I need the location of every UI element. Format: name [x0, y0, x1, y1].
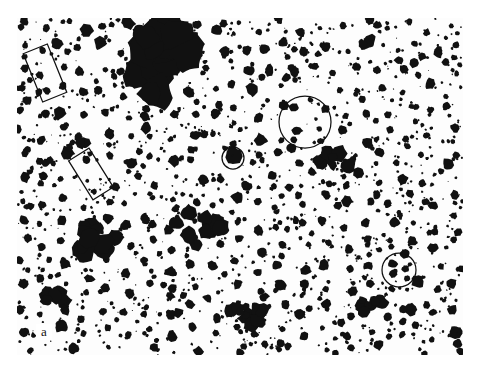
particle: [449, 83, 452, 86]
particle: [310, 158, 313, 161]
particle: [123, 48, 124, 49]
particle: [162, 241, 163, 242]
particle: [198, 129, 201, 131]
particle: [42, 321, 45, 323]
agglomerate-left-mid: [63, 209, 129, 269]
particle: [310, 31, 313, 34]
particle: [20, 103, 23, 106]
particle: [178, 157, 182, 161]
particle: [112, 142, 115, 146]
particle: [52, 183, 57, 187]
particle: [40, 307, 41, 308]
particle: [160, 256, 163, 259]
particle: [22, 267, 25, 270]
particle: [318, 259, 328, 271]
particle: [451, 228, 453, 230]
particle: [274, 68, 276, 71]
particle: [366, 118, 368, 120]
particle: [419, 42, 422, 45]
particle: [284, 184, 294, 192]
particle: [202, 65, 210, 72]
particle: [39, 46, 46, 54]
particle: [300, 327, 303, 330]
particle: [395, 280, 397, 282]
particle: [312, 140, 316, 144]
particle: [329, 216, 331, 218]
particle: [19, 85, 25, 92]
particle: [412, 321, 420, 329]
particle: [20, 215, 30, 224]
particle: [361, 88, 363, 90]
particle: [80, 330, 86, 337]
particle: [184, 178, 187, 181]
particle: [373, 66, 381, 74]
particle: [447, 113, 451, 117]
particle: [396, 38, 397, 39]
particle: [116, 140, 118, 143]
particle: [22, 306, 26, 309]
particle: [370, 338, 374, 342]
particle: [34, 275, 37, 277]
particle: [243, 66, 254, 76]
particle: [314, 258, 317, 261]
particle: [119, 308, 127, 316]
particle: [213, 86, 220, 92]
particle: [295, 191, 302, 199]
particle: [347, 286, 358, 296]
particle: [386, 239, 388, 241]
particle: [61, 63, 68, 70]
particle: [240, 343, 247, 349]
particle: [320, 294, 323, 296]
particle: [310, 287, 313, 290]
particle: [137, 101, 138, 103]
particle: [312, 186, 315, 189]
particle: [221, 315, 225, 319]
particle: [458, 274, 460, 277]
particle: [369, 327, 371, 328]
particle: [376, 209, 381, 213]
particle: [200, 70, 205, 75]
particle: [207, 261, 218, 271]
particle: [137, 303, 140, 306]
particle: [88, 188, 91, 190]
particle: [348, 65, 349, 66]
particle: [248, 175, 252, 179]
particle: [40, 63, 42, 64]
particle: [251, 261, 255, 265]
particle: [136, 251, 137, 252]
particle: [245, 83, 257, 97]
particle: [282, 203, 285, 206]
particle: [277, 220, 282, 225]
particle: [219, 20, 228, 28]
particle: [75, 66, 84, 76]
particle: [305, 241, 311, 247]
particle: [278, 137, 284, 143]
particle: [444, 36, 448, 40]
particle: [160, 195, 164, 199]
particle: [210, 340, 213, 343]
particle: [289, 170, 291, 172]
particle: [381, 282, 384, 285]
particle: [326, 280, 330, 284]
particle: [115, 104, 119, 108]
particle: [452, 104, 454, 106]
particle: [418, 52, 427, 61]
particle: [191, 277, 195, 281]
particle: [267, 22, 271, 26]
particle: [172, 351, 176, 354]
particle: [392, 187, 393, 188]
particle: [44, 228, 47, 231]
particle: [342, 113, 349, 119]
particle: [352, 62, 361, 71]
agglomerate-right-mid: [310, 141, 357, 179]
particle: [446, 279, 456, 289]
particle: [32, 189, 36, 192]
particle: [99, 335, 102, 337]
particle: [120, 92, 128, 100]
particle: [192, 283, 199, 290]
particle: [90, 188, 96, 195]
particle: [337, 162, 340, 165]
particle: [278, 193, 285, 199]
particle: [221, 238, 223, 240]
particle: [182, 180, 184, 183]
